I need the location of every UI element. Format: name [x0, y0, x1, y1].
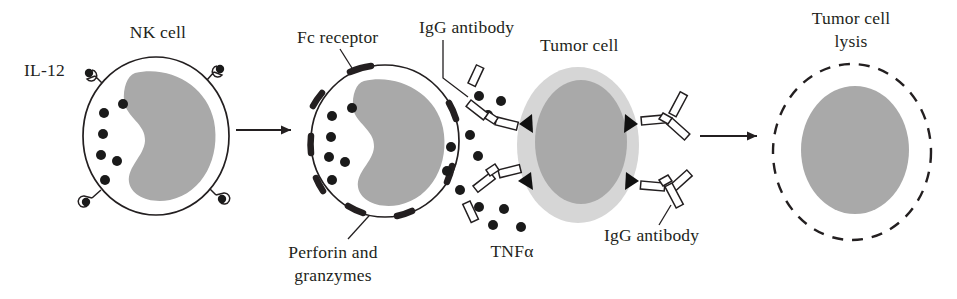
granule [98, 129, 108, 139]
tnf-dot [488, 220, 498, 230]
label-igg-antibody-bottom: IgG antibody [604, 225, 699, 245]
granule [96, 150, 106, 160]
tnf-dot [474, 91, 484, 101]
label-perforin-line2: granzymes [294, 265, 372, 285]
lysed-cell-nucleus [801, 86, 909, 214]
granule [112, 156, 122, 166]
il12-receptor [85, 69, 103, 84]
leader-igg-top [443, 40, 468, 97]
il12-ligand-dot [218, 195, 226, 203]
igg-fc-stem [495, 117, 518, 130]
label-tumor-lysis-line2: lysis [834, 31, 867, 51]
granule [100, 175, 110, 185]
tnf-dot [474, 202, 484, 212]
il12-receptor [207, 65, 224, 80]
diagram-canvas: IL-12 NK cell Fc receptor Perforin and g… [0, 0, 957, 299]
activated-nk-cell [311, 65, 459, 217]
igg-antibody-group-left [463, 65, 522, 223]
igg-antibody [463, 164, 522, 223]
granule [340, 157, 350, 167]
tnf-dot [455, 185, 465, 195]
igg-antibody [641, 92, 690, 140]
label-tnf-alpha: TNFα [490, 241, 533, 261]
arrow-stage1-to-stage2 [236, 126, 291, 135]
granule [99, 108, 109, 118]
igg-fc-stem [498, 165, 521, 178]
il12-ligand-dot [82, 198, 90, 206]
tnf-dot [473, 151, 483, 161]
il12-receptor [78, 190, 101, 207]
label-il12: IL-12 [24, 60, 65, 80]
resting-nk-cell [78, 57, 229, 215]
igg-hinge [486, 164, 499, 176]
label-fc-receptor: Fc receptor [297, 27, 378, 47]
granule [327, 111, 337, 121]
igg-antibody [466, 65, 518, 130]
tumor-cell [517, 67, 639, 223]
arrow-stage3-to-stage4 [700, 132, 757, 141]
tumor-cell-nucleus [535, 80, 627, 204]
label-igg-antibody-top: IgG antibody [419, 17, 514, 37]
il12-receptor [208, 187, 230, 204]
il12-ligand-dot [85, 69, 93, 77]
igg-fab-arm [669, 92, 687, 117]
tnf-dot [496, 96, 506, 106]
tnf-dot [499, 204, 509, 214]
tnf-dot [516, 222, 526, 232]
lysed-tumor-cell [773, 64, 931, 240]
granule [324, 152, 334, 162]
leader-igg-bottom [659, 205, 671, 225]
granule [326, 132, 336, 142]
granule [347, 103, 357, 113]
granule [118, 99, 128, 109]
igg-antibody [640, 170, 692, 208]
igg-fab-arm [468, 65, 484, 87]
immunology-diagram: IL-12 NK cell Fc receptor Perforin and g… [0, 0, 957, 299]
label-tumor-lysis-line1: Tumor cell [812, 8, 891, 28]
label-perforin-line1: Perforin and [288, 242, 377, 262]
tnf-dot [442, 166, 452, 176]
igg-antibody-group-right [640, 92, 692, 208]
tnf-dot [465, 130, 475, 140]
label-tumor-cell: Tumor cell [540, 35, 619, 55]
label-nk-cell: NK cell [130, 22, 186, 42]
tnf-dot [446, 142, 456, 152]
il12-ligand-dot [216, 65, 224, 73]
igg-hinge [485, 112, 498, 124]
granule [327, 175, 337, 185]
